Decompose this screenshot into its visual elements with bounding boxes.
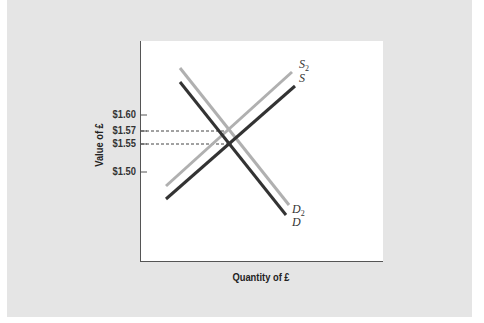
ytick-label-160: $1.60 — [94, 108, 137, 120]
demand-curve-d — [180, 82, 286, 215]
label-d2-main: D — [292, 202, 301, 216]
supply-curve-s — [166, 86, 295, 199]
label-d: D — [292, 215, 301, 230]
y-axis-label: Value of £ — [93, 123, 105, 167]
label-d2-sub: 2 — [301, 209, 305, 218]
label-s: S — [299, 71, 305, 86]
x-axis-label: Quantity of £ — [232, 271, 289, 283]
label-s2-sub: 2 — [305, 64, 309, 73]
